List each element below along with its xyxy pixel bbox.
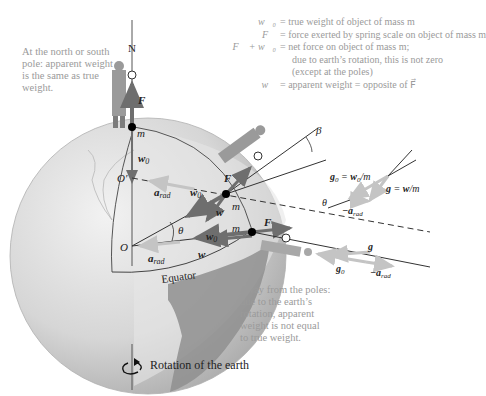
mass-point-north xyxy=(128,123,136,131)
label-w-equator: w xyxy=(198,248,206,260)
mass-point-mid xyxy=(222,190,230,198)
label-g0-eq: g0 = w0/m xyxy=(329,171,370,184)
legend-row-F: F⃗= force exerted by spring scale on obj… xyxy=(228,29,486,42)
legend-row-net-force: F⃗ + w⃗₀= net force on object of mass m; xyxy=(228,41,486,54)
label-F-equator: F xyxy=(263,216,272,228)
legend: w⃗₀= true weight of object of mass m F⃗=… xyxy=(228,16,486,92)
label-O: O xyxy=(120,241,128,253)
equator-note-line: rotation, apparent xyxy=(240,308,330,320)
rotation-caption: Rotation of the earth xyxy=(150,358,249,373)
spring-scale-north xyxy=(128,71,136,79)
label-g0: g0 xyxy=(335,263,345,276)
label-neg-arad-mid: −arad xyxy=(342,205,363,218)
pole-note-line: weight. xyxy=(22,82,113,94)
pole-note-line: is the same as true xyxy=(22,70,113,82)
legend-row-w0: w⃗₀= true weight of object of mass m xyxy=(228,16,486,29)
label-neg-arad-equator: −arad xyxy=(370,267,391,280)
legend-row-w: w⃗= apparent weight = opposite of F⃗ xyxy=(228,79,486,92)
label-m-equator: m xyxy=(232,222,240,234)
equator-note: Away from the poles: due to the earth’s … xyxy=(240,284,330,344)
legend-row-continuation-1: due to earth’s rotation, this is not zer… xyxy=(228,54,486,67)
label-north: N xyxy=(128,42,136,54)
equator-note-line: to true weight. xyxy=(240,332,330,344)
equator-note-line: due to the earth’s xyxy=(240,296,330,308)
label-g: g xyxy=(367,241,373,252)
pole-note-line: pole: apparent weight xyxy=(22,58,113,70)
label-F-north: F xyxy=(137,94,146,106)
mass-point-equator xyxy=(248,228,256,236)
vector-line-equator xyxy=(318,252,392,266)
label-w-mid: w xyxy=(216,206,224,218)
label-m-mid: m xyxy=(232,200,240,212)
label-F-mid: F xyxy=(223,172,232,184)
person-north-pole xyxy=(112,61,126,128)
label-m-north: m xyxy=(137,127,145,139)
legend-row-continuation-2: (except at the poles) xyxy=(228,66,486,79)
label-g-eq: g = w/m xyxy=(385,183,419,194)
label-theta-triangle: θ xyxy=(322,197,327,208)
label-O-prime: O′ xyxy=(117,172,128,184)
label-theta: θ xyxy=(178,224,184,236)
equator-note-line: Away from the poles: xyxy=(240,284,330,296)
label-beta: β xyxy=(315,124,322,136)
equator-note-line: weight is not equal xyxy=(240,320,330,332)
pole-note-line: At the north or south xyxy=(22,46,113,58)
pole-note: At the north or south pole: apparent wei… xyxy=(22,46,113,94)
